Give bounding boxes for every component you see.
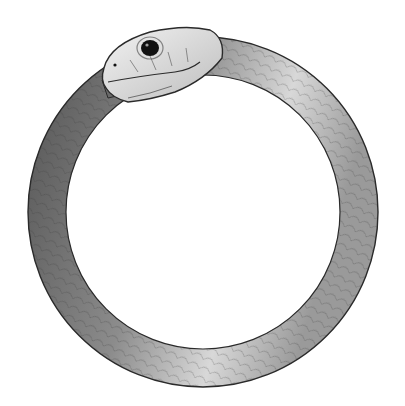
eye-icon (141, 40, 159, 56)
ouroboros-svg (0, 0, 405, 406)
ouroboros-illustration: Ouroboros (0, 0, 405, 406)
snake-head (102, 27, 222, 102)
snake-body (28, 37, 378, 387)
nostril (113, 63, 116, 66)
